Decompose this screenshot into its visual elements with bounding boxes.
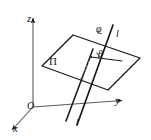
angle-theta-label: θ: [98, 49, 103, 59]
line-l: [77, 25, 113, 125]
projection-line: [66, 49, 93, 121]
in-plane-ray: [91, 57, 122, 61]
intersection-point: [90, 56, 92, 58]
y-axis: [33, 101, 122, 108]
line-l-label-top: l: [116, 29, 119, 39]
geometry-figure: z y x O Π φ θ l l: [0, 0, 151, 140]
line-l-label-bottom: l: [76, 118, 79, 127]
z-axis-label: z: [27, 13, 31, 24]
origin-label: O: [27, 101, 34, 111]
angle-phi-label: φ: [96, 24, 102, 34]
y-axis-label: y: [115, 95, 120, 106]
x-axis-label: x: [13, 123, 18, 134]
plane-pi-label: Π: [49, 56, 57, 67]
